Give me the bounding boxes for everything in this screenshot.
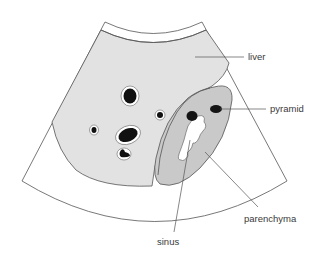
label-liver: liver xyxy=(248,51,265,62)
vessel-1 xyxy=(124,89,137,104)
label-parenchyma: parenchyma xyxy=(244,213,297,224)
pyramid-left xyxy=(187,111,198,121)
label-pyramid: pyramid xyxy=(270,103,304,114)
ultrasound-diagram: liver pyramid parenchyma sinus xyxy=(0,0,324,259)
vessel-2 xyxy=(157,112,163,118)
label-sinus: sinus xyxy=(157,236,179,247)
vessel-3 xyxy=(92,127,97,133)
